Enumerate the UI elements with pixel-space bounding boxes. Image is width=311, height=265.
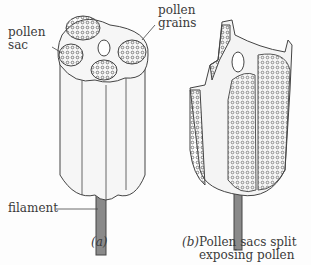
caption-b-letter: (b) [182, 236, 199, 249]
anther-illustration [0, 0, 311, 265]
anther-open [190, 20, 292, 250]
label-pollen-sac: pollen sac [8, 26, 45, 52]
anther-diagram: pollen sac pollen grains filament (a) (b… [0, 0, 311, 265]
pollen-grains-leader [142, 25, 155, 40]
anther-closed [52, 16, 155, 255]
caption-b: Pollen sacs split exposing pollen [199, 236, 296, 262]
label-filament: filament [8, 202, 58, 215]
label-pollen-grains: pollen grains [158, 4, 196, 30]
caption-a: (a) [91, 236, 108, 249]
